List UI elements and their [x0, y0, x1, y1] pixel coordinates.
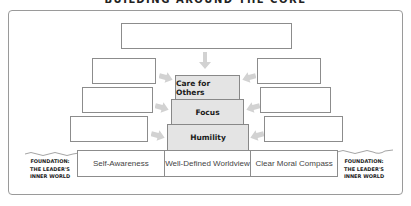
foundation-row: Self-Awareness Well-Defined Worldview Cl… [77, 150, 338, 177]
diagram-title: BUILDING AROUND THE CORE [0, 0, 411, 5]
side-label-line: FOUNDATION: [342, 158, 386, 166]
arrow-left-icon [246, 102, 260, 113]
right-blank-box-2[interactable] [260, 87, 331, 113]
pyramid-tier-care-for-others: Care for Others [175, 75, 240, 100]
pyramid-tier-focus: Focus [171, 99, 244, 125]
side-label-line: FOUNDATION: [28, 158, 72, 166]
foundation-label: Well-Defined Worldview [165, 159, 250, 168]
tier-label: Humility [190, 133, 226, 142]
foundation-label: Self-Awareness [93, 159, 149, 168]
left-wavy-divider [25, 151, 79, 157]
right-blank-box-3[interactable] [264, 116, 343, 142]
tier-label: Care for Others [176, 79, 239, 97]
arrow-right-icon [159, 72, 173, 83]
top-blank-box[interactable] [121, 23, 292, 49]
foundation-side-label-right: FOUNDATION: THE LEADER'S INNER WORLD [342, 158, 386, 181]
tier-label: Focus [195, 108, 219, 117]
arrow-left-icon [250, 130, 264, 141]
side-label-line: THE LEADER'S [342, 166, 386, 174]
arrow-right-icon [155, 102, 169, 113]
arrow-left-icon [242, 72, 256, 83]
side-label-line: INNER WORLD [28, 173, 72, 181]
right-blank-box-1[interactable] [257, 58, 321, 84]
foundation-cell-moral-compass: Clear Moral Compass [251, 151, 337, 176]
left-blank-box-2[interactable] [82, 87, 153, 113]
foundation-cell-worldview: Well-Defined Worldview [165, 151, 252, 176]
right-wavy-divider [337, 148, 393, 154]
foundation-cell-self-awareness: Self-Awareness [78, 151, 165, 176]
side-label-line: INNER WORLD [342, 173, 386, 181]
side-label-line: THE LEADER'S [28, 166, 72, 174]
left-blank-box-3[interactable] [70, 116, 148, 142]
foundation-label: Clear Moral Compass [256, 159, 333, 168]
left-blank-box-1[interactable] [92, 58, 156, 84]
pyramid-tier-humility: Humility [167, 124, 249, 151]
arrow-right-icon [151, 130, 165, 141]
foundation-side-label-left: FOUNDATION: THE LEADER'S INNER WORLD [28, 158, 72, 181]
arrow-down-icon [199, 52, 211, 69]
